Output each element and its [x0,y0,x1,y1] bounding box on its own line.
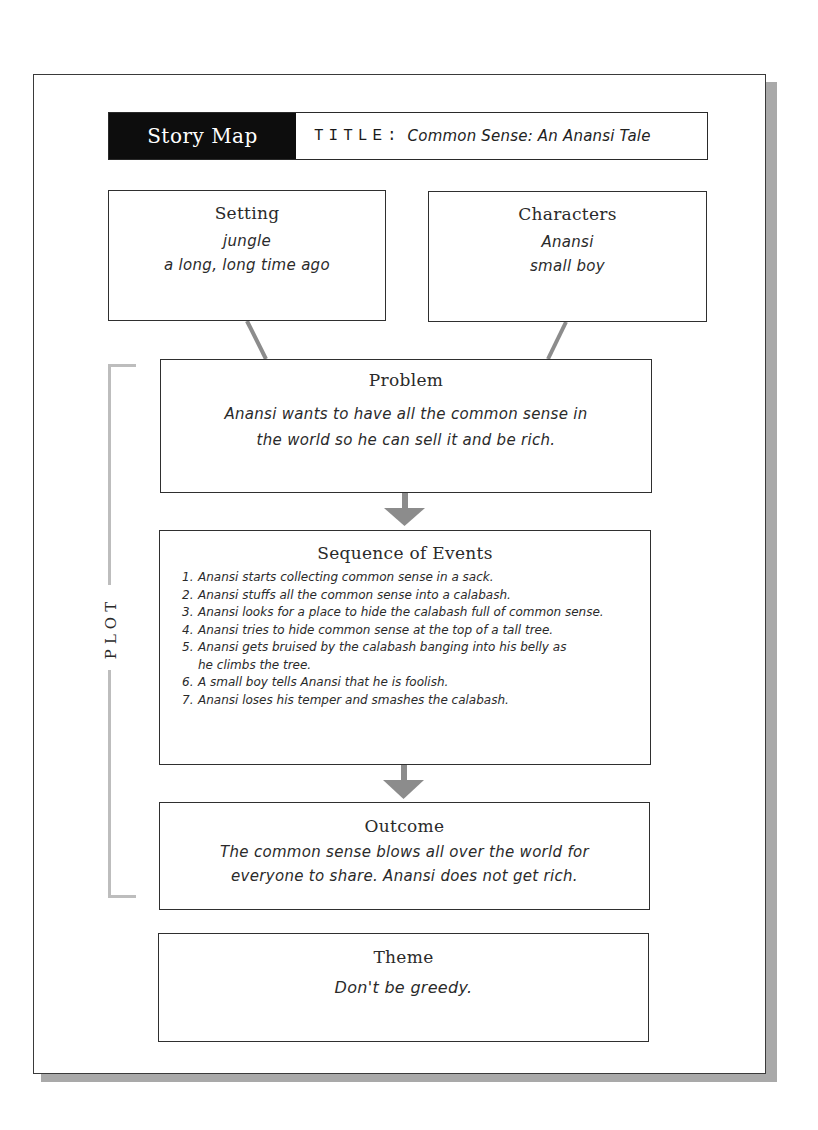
outcome-line: everyone to share. Anansi does not get r… [160,864,649,888]
title-bar: Story Map TITLE: Common Sense: An Anansi… [108,112,708,160]
event-item: 6. A small boy tells Anansi that he is f… [182,674,650,692]
outcome-content: The common sense blows all over the worl… [160,840,649,888]
theme-box: Theme Don't be greedy. [158,933,649,1042]
event-text: Anansi looks for a place to hide the cal… [198,604,650,622]
problem-content: Anansi wants to have all the common sens… [161,401,651,453]
event-item: 5. Anansi gets bruised by the calabash b… [182,639,650,674]
event-text: Anansi gets bruised by the calabash bang… [198,639,650,674]
setting-box: Setting jungle a long, long time ago [108,190,386,321]
outcome-box: Outcome The common sense blows all over … [159,802,650,910]
character-line: small boy [429,254,706,278]
event-text: Anansi tries to hide common sense at the… [198,622,650,640]
problem-line: Anansi wants to have all the common sens… [161,401,651,427]
theme-line: Don't be greedy. [159,975,648,1000]
event-item: 3. Anansi looks for a place to hide the … [182,604,650,622]
event-number: 1. [182,569,198,587]
event-text: Anansi loses his temper and smashes the … [198,692,650,710]
event-number: 4. [182,622,198,640]
sequence-heading: Sequence of Events [160,543,650,563]
characters-content: Anansi small boy [429,230,706,278]
theme-heading: Theme [159,947,648,967]
event-item: 7. Anansi loses his temper and smashes t… [182,692,650,710]
event-item: 1. Anansi starts collecting common sense… [182,569,650,587]
problem-box: Problem Anansi wants to have all the com… [160,359,652,493]
event-item: 4. Anansi tries to hide common sense at … [182,622,650,640]
event-item: 2. Anansi stuffs all the common sense in… [182,587,650,605]
event-number: 6. [182,674,198,692]
character-line: Anansi [429,230,706,254]
outcome-line: The common sense blows all over the worl… [160,840,649,864]
setting-line: a long, long time ago [109,253,385,277]
setting-line: jungle [109,229,385,253]
events-list: 1. Anansi starts collecting common sense… [160,569,650,709]
setting-content: jungle a long, long time ago [109,229,385,277]
event-number: 7. [182,692,198,710]
event-text: A small boy tells Anansi that he is fool… [198,674,650,692]
problem-line: the world so he can sell it and be rich. [161,427,651,453]
theme-content: Don't be greedy. [159,975,648,1000]
characters-box: Characters Anansi small boy [428,191,707,322]
problem-heading: Problem [161,370,651,390]
event-text: Anansi starts collecting common sense in… [198,569,650,587]
characters-heading: Characters [429,204,706,224]
story-map-badge: Story Map [109,113,296,159]
outcome-heading: Outcome [160,816,649,836]
event-number: 3. [182,604,198,622]
event-number: 2. [182,587,198,605]
event-text: Anansi stuffs all the common sense into … [198,587,650,605]
sequence-of-events-box: Sequence of Events 1. Anansi starts coll… [159,530,651,765]
plot-label: PLOT [102,596,120,658]
title-label: TITLE: [296,113,402,159]
setting-heading: Setting [109,203,385,223]
event-number: 5. [182,639,198,674]
story-title: Common Sense: An Anansi Tale [402,113,651,159]
plot-label-wrap: PLOT [98,585,124,670]
